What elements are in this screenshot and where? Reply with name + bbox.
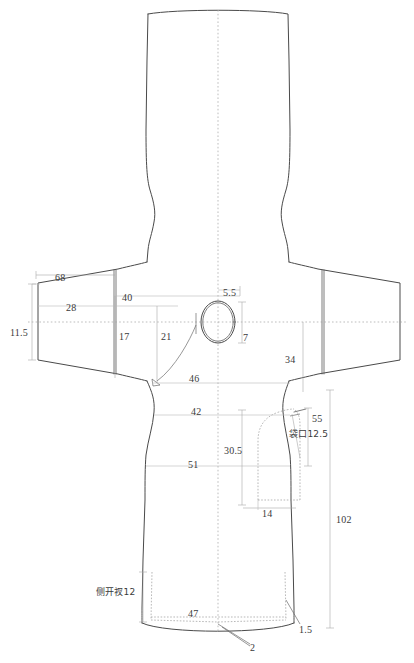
garment-lower-body-outline <box>142 381 294 631</box>
dim-sleeve-cap-height: 34 <box>285 355 295 365</box>
dim-neck-front-drop: 5.5 <box>223 288 236 298</box>
dim-hem-width: 47 <box>188 609 198 619</box>
dim-shoulder-to-center: 40 <box>122 293 132 303</box>
technical-drawing-sheet: .outline { fill:none; stroke:#5a5a5a; st… <box>0 0 414 663</box>
dim-pocket-depth: 30.5 <box>224 446 242 456</box>
side-slit-left <box>151 572 218 622</box>
side-slit-right <box>218 572 286 622</box>
dim-total-length: 102 <box>336 515 352 525</box>
dim-neck-width: 7 <box>243 333 248 343</box>
dim-slit-facing: 1.5 <box>299 625 312 635</box>
dim-hip-line: 51 <box>188 460 198 470</box>
dim-chest-line: 46 <box>189 374 199 384</box>
dim-armhole-depth: 17 <box>119 332 129 342</box>
dim-sleeve-top-length: 68 <box>55 273 65 283</box>
dim-pocket-position: 55 <box>312 414 322 424</box>
dim-sleeve-hem-width: 11.5 <box>10 328 28 338</box>
dim-half-chest-front: 21 <box>161 332 171 342</box>
garment-pattern-svg: .outline { fill:none; stroke:#5a5a5a; st… <box>0 0 414 663</box>
pocket-outline <box>258 409 306 500</box>
dim-side-slit: 侧开衩12 <box>96 588 135 597</box>
dim-hem-facing: 2 <box>250 643 255 653</box>
dimension-lines <box>28 271 334 646</box>
dim-pocket-width: 14 <box>262 509 272 519</box>
dim-pocket-opening: 袋口12.5 <box>289 430 328 439</box>
right-sleeve-outline <box>289 262 400 381</box>
dim-sleeve-upper-width: 28 <box>66 303 76 313</box>
dim-waist-line: 42 <box>191 407 201 417</box>
